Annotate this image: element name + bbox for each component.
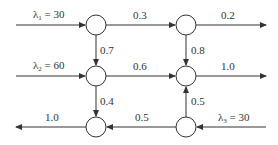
node-n3	[86, 66, 106, 86]
arrival-label-2: λ2 = 60	[33, 59, 65, 73]
prob-n2-exit: 0.2	[221, 9, 235, 21]
queueing-network-diagram: λ1 = 30 λ2 = 60 λ3 = 30 0.3 0.2 0.7 0.8 …	[0, 0, 278, 145]
prob-n2-n4: 0.8	[191, 44, 205, 56]
node-n4	[176, 66, 196, 86]
prob-n5-exit: 1.0	[45, 111, 59, 123]
prob-n1-n3: 0.7	[100, 44, 114, 56]
arrival-label-3: λ3 = 30	[218, 111, 250, 125]
arrival-label-1: λ1 = 30	[33, 8, 65, 22]
node-n1	[86, 15, 106, 35]
prob-n6-n5: 0.5	[135, 111, 149, 123]
prob-n6-n4: 0.5	[191, 95, 205, 107]
prob-n1-n2: 0.3	[133, 9, 147, 21]
prob-n3-n4: 0.6	[133, 60, 147, 72]
node-n5	[86, 117, 106, 137]
node-n6	[176, 117, 196, 137]
prob-n4-exit: 1.0	[221, 60, 235, 72]
prob-n3-n5: 0.4	[100, 95, 114, 107]
node-n2	[176, 15, 196, 35]
